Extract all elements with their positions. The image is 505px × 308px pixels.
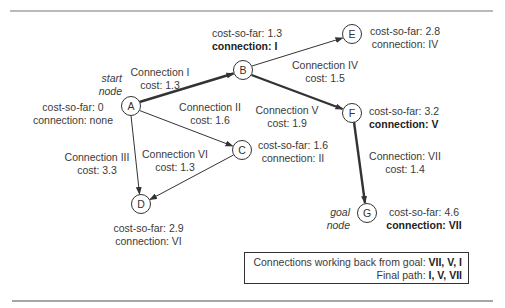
- node-A-letter: A: [122, 97, 140, 115]
- node-G-info: cost-so-far: 4.6 connection: VII: [384, 206, 464, 232]
- start-node-tag: start node: [82, 72, 122, 98]
- edge-II-label: Connection II cost: 1.6: [170, 101, 250, 127]
- node-B-letter: B: [234, 61, 252, 79]
- node-G-letter: G: [358, 204, 376, 222]
- node-F-info: cost-so-far: 3.2 connection: V: [369, 105, 439, 131]
- node-C-info: cost-so-far: 1.6 connection: II: [256, 139, 330, 165]
- edge-IV-label: Connection IV cost: 1.5: [285, 59, 365, 85]
- path-summary-box: Connections working back from goal: VII,…: [244, 252, 469, 284]
- node-E-letter: E: [343, 25, 361, 43]
- node-D-letter: D: [132, 195, 150, 213]
- node-E-info: cost-so-far: 2.8 connection: IV: [365, 25, 445, 51]
- edge-VI-label: Connection VI cost: 1.3: [135, 148, 215, 174]
- edge-VII-label: Connection: VII cost: 1.4: [363, 150, 447, 176]
- node-C-letter: C: [233, 141, 251, 159]
- summary-line-backtrack: Connections working back from goal: VII,…: [245, 256, 462, 269]
- goal-node-tag: goal node: [322, 206, 350, 232]
- node-F-letter: F: [343, 104, 361, 122]
- edge-III-label: Connection III cost: 3.3: [55, 151, 139, 177]
- node-A-info: cost-so-far: 0 connection: none: [28, 101, 118, 127]
- edge-V-label: Connection V cost: 1.9: [247, 104, 327, 130]
- summary-line-final-path: Final path: I, V, VII: [245, 269, 462, 282]
- node-B-info: cost-so-far: 1.3 connection: I: [212, 27, 276, 53]
- node-D-info: cost-so-far: 2.9 connection: VI: [111, 222, 186, 248]
- edge-I-label: Connection I cost: 1.3: [120, 66, 200, 92]
